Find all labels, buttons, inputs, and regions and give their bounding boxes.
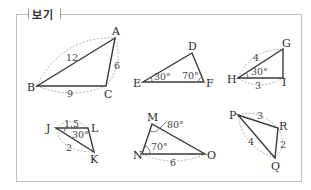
angle-j-value: 30° [72, 129, 89, 140]
side-jl-length: 1.5 [64, 118, 79, 129]
vertex-l-label: L [91, 122, 99, 135]
side-pr-length: 3 [257, 110, 263, 121]
triangle-jkl: J L K 1.5 30° 2 [45, 118, 99, 166]
vertex-e-label: E [133, 77, 141, 90]
angle-n-value: 70° [151, 141, 168, 152]
side-bc-length: 9 [67, 88, 73, 99]
vertex-d-label: D [188, 40, 197, 53]
vertex-k-label: K [90, 153, 99, 166]
angle-h-value: 30° [251, 66, 268, 77]
angle-m-pointer [160, 122, 166, 128]
angle-m-arc [150, 129, 159, 132]
side-ac-length: 6 [114, 60, 120, 71]
vertex-r-label: R [279, 120, 288, 133]
vertex-p-label: P [229, 109, 237, 122]
vertex-c-label: C [104, 88, 112, 101]
vertex-f-label: F [206, 77, 214, 90]
angle-e-arc [151, 77, 152, 82]
vertex-n-label: N [133, 149, 143, 162]
side-jk-length: 2 [66, 142, 72, 153]
side-hg-length: 4 [253, 52, 259, 63]
vertex-g-label: G [282, 37, 291, 50]
vertex-a-label: A [111, 25, 121, 38]
triangle-pqr: P R Q 3 2 4 [229, 109, 288, 173]
vertex-m-label: M [147, 111, 158, 124]
triangle-pqr-edges [238, 115, 278, 158]
vertex-b-label: B [27, 81, 35, 94]
angle-h-arc [246, 72, 248, 78]
vertex-i-label: I [282, 76, 286, 89]
angle-e-value: 30° [154, 71, 171, 82]
triangles-diagram: A B C 12 6 9 D E F 30° 70° G H I 4 30° 3… [0, 0, 311, 190]
side-ab-length: 12 [66, 52, 78, 63]
angle-m-value: 80° [167, 119, 184, 130]
vertex-q-label: Q [271, 160, 280, 173]
side-hi-length: 3 [255, 80, 261, 91]
vertex-j-label: J [45, 122, 50, 135]
side-no-length: 6 [170, 157, 176, 168]
side-pq-length: 4 [248, 136, 254, 147]
triangle-mno: M N O 80° 70° 6 [133, 111, 216, 168]
side-rq-length: 2 [280, 139, 286, 150]
vertex-h-label: H [227, 73, 237, 86]
triangle-ghi: G H I 4 30° 3 [227, 37, 291, 91]
angle-n-arc [145, 146, 150, 154]
angle-f-value: 70° [182, 70, 199, 81]
triangle-def: D E F 30° 70° [133, 40, 214, 90]
vertex-o-label: O [207, 149, 216, 162]
triangle-abc: A B C 12 6 9 [27, 25, 121, 101]
